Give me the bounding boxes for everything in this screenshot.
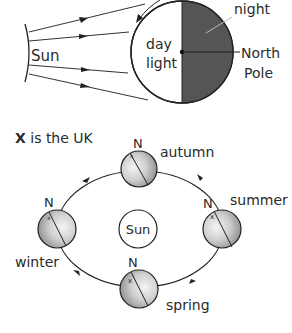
globe-spring: x — [120, 270, 158, 308]
uk-legend: X is the UK — [15, 130, 94, 146]
uk-marker: x — [210, 213, 214, 221]
globe-autumn: x — [121, 151, 157, 187]
orbit-diagram: X is the UK Sun x N autumn x — [15, 130, 288, 313]
sun-center-label: Sun — [126, 222, 151, 237]
north-marker-summer: N — [203, 196, 213, 211]
north-marker-winter: N — [44, 195, 54, 210]
night-label: night — [234, 1, 271, 17]
globe-summer: x — [203, 210, 241, 248]
seasons-diagram: Sun day light night — [0, 0, 292, 333]
sun-label: Sun — [31, 47, 60, 65]
globe-winter: x — [38, 210, 76, 248]
season-summer: summer — [230, 192, 288, 208]
uk-marker: x — [47, 214, 51, 221]
pole-label: Pole — [244, 65, 273, 81]
ray-arrowheads — [79, 17, 90, 88]
uk-marker: x — [128, 277, 132, 285]
season-autumn: autumn — [160, 144, 214, 160]
uk-legend-text: is the UK — [26, 130, 94, 146]
sun-arc — [25, 24, 29, 82]
day-label: day — [146, 36, 172, 52]
light-label: light — [146, 55, 178, 71]
season-spring: spring — [166, 297, 210, 313]
north-marker-spring: N — [128, 255, 138, 270]
uk-legend-x: X — [15, 130, 26, 146]
north-label: North — [241, 45, 280, 61]
uk-marker: x — [130, 152, 134, 159]
sun-center: Sun — [119, 210, 157, 248]
north-marker-autumn: N — [133, 136, 143, 151]
day-night-diagram: Sun day light night — [25, 0, 280, 103]
season-winter: winter — [15, 254, 59, 270]
